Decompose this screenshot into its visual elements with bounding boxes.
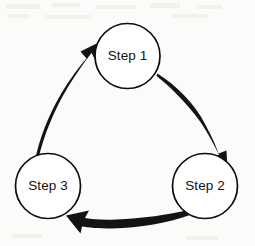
node-step-2[interactable]: Step 2 (173, 154, 238, 219)
node-step-1[interactable]: Step 1 (95, 24, 160, 89)
step-1-label: Step 1 (108, 48, 148, 63)
step-3-label: Step 3 (28, 178, 68, 193)
cycle-svg-canvas: Step 1 Step 2 Step 3 (0, 0, 255, 246)
arrow-step3-step1 (35, 41, 102, 161)
node-step-3[interactable]: Step 3 (16, 154, 81, 219)
arrow-step2-step3 (66, 210, 192, 234)
step-2-label: Step 2 (185, 178, 225, 193)
cycle-diagram: Step 1 Step 2 Step 3 (0, 0, 255, 246)
